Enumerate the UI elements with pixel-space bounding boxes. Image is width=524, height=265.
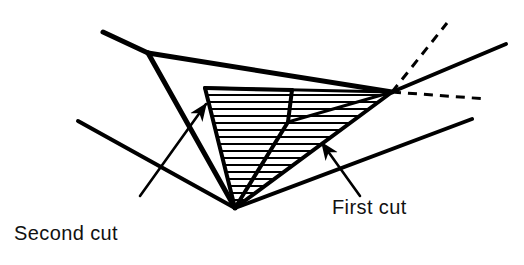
inner-crease-upper [205,88,292,90]
figure-canvas: Second cut First cut [0,0,524,265]
upper-left-ray [103,32,148,53]
first-cut-leader-arrow [322,143,360,196]
upper-right-ray [392,44,506,92]
hatch-left-edge [205,88,235,208]
top-ridge [148,53,392,92]
label-first-cut: First cut [332,196,407,219]
second-cut-leader-arrow [140,104,206,196]
solid-edge-group [78,32,506,208]
cut-face-hatching [150,95,440,207]
label-second-cut: Second cut [14,222,118,245]
right-lower-ray [235,119,472,208]
dashed-right-ray [392,92,487,99]
inner-crease-right [288,92,392,122]
